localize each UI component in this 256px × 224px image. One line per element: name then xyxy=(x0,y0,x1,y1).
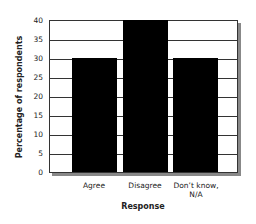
y-axis-label: Percentage of respondents xyxy=(15,36,24,159)
y-tick: 30 xyxy=(33,55,43,63)
y-tick: 15 xyxy=(33,112,43,120)
bar-disagree xyxy=(123,20,168,172)
y-tick: 10 xyxy=(33,131,43,139)
x-tick-disagree: Disagree xyxy=(128,181,161,190)
x-tick-agree: Agree xyxy=(83,181,105,190)
x-tick-dont-know: Don’t know, N/A xyxy=(173,181,218,199)
bar-dont-know xyxy=(173,58,218,172)
y-tick: 0 xyxy=(38,169,43,177)
y-tick: 35 xyxy=(33,36,43,44)
plot-area xyxy=(49,20,238,173)
bar-chart: Percentage of respondents 0 5 10 15 20 2… xyxy=(0,0,256,224)
y-tick: 25 xyxy=(33,74,43,82)
y-tick: 5 xyxy=(38,150,43,158)
bar-agree xyxy=(72,58,117,172)
y-tick: 20 xyxy=(33,93,43,101)
x-axis-label: Response xyxy=(121,202,164,211)
y-tick: 40 xyxy=(33,17,43,25)
